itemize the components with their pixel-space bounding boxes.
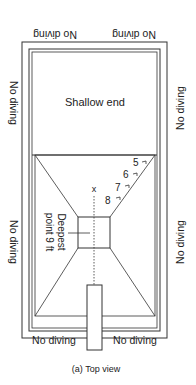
slope-line-bottom-right bbox=[110, 248, 155, 316]
no-diving-bottom-right: No diving bbox=[113, 334, 157, 346]
diving-board bbox=[87, 285, 102, 350]
no-diving-top-right: No diving bbox=[112, 29, 156, 41]
no-diving-left-upper: No diving bbox=[8, 81, 20, 125]
shallow-end-label: Shallow end bbox=[65, 96, 125, 108]
no-diving-right-upper: No diving bbox=[174, 86, 186, 130]
depth-marker-7: 7 bbox=[115, 182, 121, 193]
deepest-label-line1: Deepest bbox=[56, 213, 67, 250]
no-diving-top-left: No diving bbox=[33, 29, 77, 41]
no-diving-right-lower: No diving bbox=[174, 220, 186, 264]
pool-top-view-diagram: Shallow end No diving No diving No divin… bbox=[0, 0, 196, 385]
depth-marker-5: 5 bbox=[133, 157, 139, 168]
slope-line-top-left bbox=[35, 155, 78, 217]
no-diving-left-lower: No diving bbox=[8, 220, 20, 264]
figure-caption: (a) Top view bbox=[72, 364, 121, 374]
deepest-label-line2: point 9 ft bbox=[44, 213, 55, 252]
centerline-marker: x bbox=[92, 184, 97, 194]
no-diving-bottom-left: No diving bbox=[32, 334, 76, 346]
depth-marker-ticks bbox=[116, 161, 146, 200]
depth-marker-6: 6 bbox=[123, 169, 129, 180]
slope-line-bottom-left bbox=[35, 248, 78, 316]
depth-marker-8: 8 bbox=[105, 195, 111, 206]
